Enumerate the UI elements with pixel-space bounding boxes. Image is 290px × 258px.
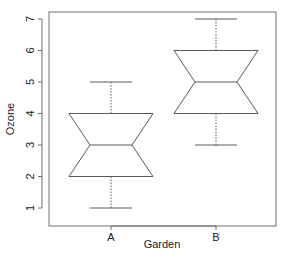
plot-frame [49, 12, 276, 226]
y-tick-label: 3 [24, 142, 36, 148]
boxes [69, 19, 258, 208]
x-axis-label: Garden [144, 238, 181, 250]
y-tick-label: 1 [24, 205, 36, 211]
x-tick-label: B [212, 231, 219, 243]
y-tick-label: 7 [24, 16, 36, 22]
y-tick-label: 5 [24, 79, 36, 85]
y-tick-label: 4 [24, 110, 36, 116]
x-tick-label: A [107, 231, 115, 243]
boxplot-chart: 1234567 AB Garden Ozone [0, 0, 290, 258]
y-tick-label: 6 [24, 47, 36, 53]
box-b [174, 19, 258, 145]
y-axis-label: Ozone [4, 103, 16, 135]
y-axis: 1234567 [24, 16, 42, 211]
y-tick-label: 2 [24, 173, 36, 179]
box-a [69, 82, 153, 208]
